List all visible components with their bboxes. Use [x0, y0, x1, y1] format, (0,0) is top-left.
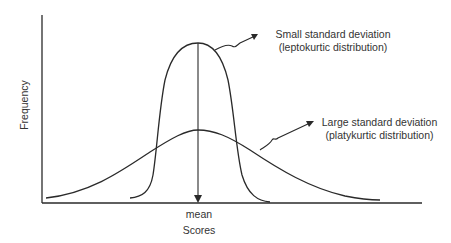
large-sd-annotation: Large standard deviation (platykurtic di… [312, 116, 447, 142]
x-axis-label: Scores [175, 224, 223, 237]
large-sd-line2: (platykurtic distribution) [312, 129, 447, 142]
small-sd-annotation: Small standard deviation (leptokurtic di… [258, 28, 408, 54]
mean-label: mean [182, 208, 216, 221]
y-axis-label: Frequency [18, 75, 30, 135]
leptokurtic-curve [130, 43, 270, 202]
small-sd-line2: (leptokurtic distribution) [258, 41, 408, 54]
mean-arrowhead-icon [194, 195, 202, 203]
large-sd-line1: Large standard deviation [312, 116, 447, 129]
small-sd-line1: Small standard deviation [258, 28, 408, 41]
large-sd-pointer [260, 123, 310, 150]
small-sd-pointer [215, 36, 255, 50]
